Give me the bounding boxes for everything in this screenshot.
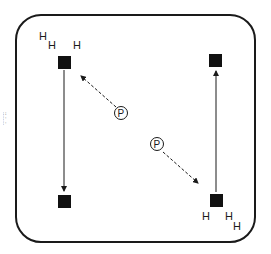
dashed-arrow-upper [81,76,116,107]
dashed-arrow-lower [163,152,198,183]
connector-layer: P P [0,0,271,254]
diagram-canvas: ::.:..:. H H H H H H P P [0,0,271,254]
p-label: P [118,108,125,119]
p-label: P [154,139,161,150]
